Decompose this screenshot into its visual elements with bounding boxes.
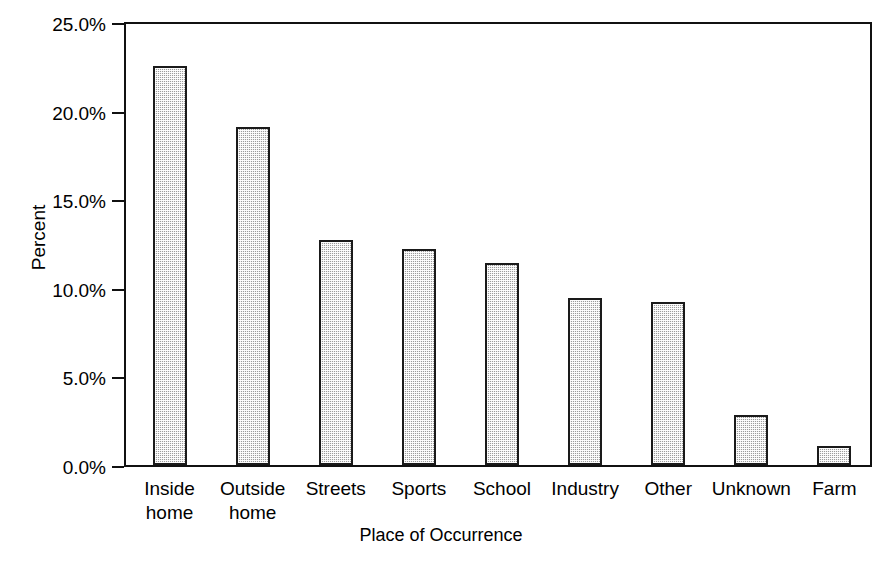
bars-layer [124, 22, 872, 467]
bar [817, 446, 851, 465]
y-axis-tick-label: 5.0% [24, 369, 106, 388]
y-axis-tick-label: 25.0% [24, 15, 106, 34]
bar [236, 127, 270, 465]
bar [568, 298, 602, 465]
bar [402, 249, 436, 465]
y-axis-tick-mark [112, 289, 124, 291]
bar [319, 240, 353, 465]
x-axis-tick-label: Farm [779, 477, 882, 501]
y-axis-tick-mark [112, 466, 124, 468]
bar [485, 263, 519, 465]
y-axis-tick-mark [112, 112, 124, 114]
y-axis-tick-mark [112, 200, 124, 202]
y-axis-tick-mark [112, 377, 124, 379]
y-axis-tick-label: 20.0% [24, 104, 106, 123]
bar-chart-figure: 25.0%20.0%15.0%10.0%5.0%0.0% Percent Ins… [0, 0, 882, 562]
x-axis-title: Place of Occurrence [0, 524, 882, 546]
bar [153, 66, 187, 465]
y-axis-title: Percent [29, 178, 48, 298]
bar [734, 415, 768, 465]
bar [651, 302, 685, 465]
y-axis-tick-label: 0.0% [24, 458, 106, 477]
y-axis-tick-mark [112, 23, 124, 25]
